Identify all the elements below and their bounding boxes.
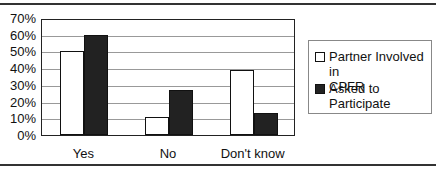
legend: Partner Involved in CPFR Asked to Partic… (308, 40, 432, 114)
x-tick-label: No (123, 146, 213, 161)
y-tick-label: 50% (0, 45, 36, 58)
legend-item-asked-to-participate: Asked to Participate (315, 81, 390, 111)
x-tick-label: Don't know (208, 146, 298, 161)
bottom-rule (0, 164, 436, 166)
legend-swatch-black (315, 84, 325, 94)
y-tick-label: 40% (0, 62, 36, 75)
bar (169, 90, 193, 135)
y-tick-label: 0% (0, 129, 36, 142)
x-tick-label: Yes (38, 146, 128, 161)
top-rule (0, 3, 436, 5)
y-tick-label: 30% (0, 79, 36, 92)
y-tick-label: 20% (0, 96, 36, 109)
legend-swatch-white (315, 52, 325, 62)
bar (254, 113, 278, 135)
bar (145, 117, 169, 135)
legend-label: Participate (329, 96, 390, 111)
bar (84, 35, 108, 135)
y-tick-label: 60% (0, 29, 36, 42)
bar (230, 70, 254, 135)
plot-area (41, 19, 295, 136)
bar (60, 51, 84, 135)
y-tick-label: 10% (0, 112, 36, 125)
y-tick-label: 70% (0, 12, 36, 25)
gridline (42, 36, 294, 37)
legend-label: Asked to (329, 81, 380, 96)
legend-label: Partner Involved in (329, 49, 424, 79)
